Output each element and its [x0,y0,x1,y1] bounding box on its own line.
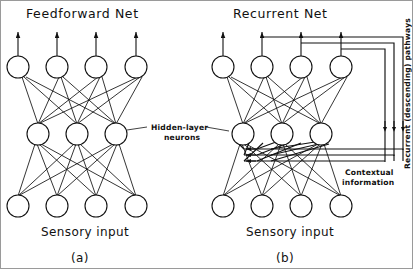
figure-neural-networks: Feedforward Net [0,0,413,269]
neuron-output [330,56,352,78]
neuron-output [125,56,147,78]
neuron-hidden [310,123,332,145]
neuron-input [125,195,147,217]
hidden-layer-label-line1: Hidden-layer [151,123,208,132]
output-layer-a [7,56,147,78]
panel-b-title: Recurrent Net [233,6,328,21]
output-axons-b [223,32,341,56]
synapses-hidden-to-output-b [227,77,347,129]
neuron-input [85,195,107,217]
neuron-hidden [27,123,49,145]
neuron-output [85,56,107,78]
panel-a-caption: (a) [71,251,89,265]
neuron-hidden [271,123,293,145]
panel-recurrent: Recurrent Net [212,6,403,265]
neuron-input [290,195,312,217]
contextual-label-line2: information [342,178,394,187]
neuron-output [7,56,29,78]
hidden-layer-annotation: Hidden-layer neurons [127,123,229,142]
recurrent-pathways-annotation: Recurrent (descending) pathways [403,18,412,169]
contextual-information-annotation: Contextual information [342,168,394,187]
neuron-output [290,56,312,78]
hidden-layer-b [232,123,332,145]
sensory-input-label-b: Sensory input [246,225,334,239]
panel-feedforward: Feedforward Net [7,6,147,265]
input-layer-b [212,195,352,217]
neuron-hidden [105,123,127,145]
neuron-input [330,195,352,217]
diagram-canvas: Feedforward Net [1,1,413,269]
synapses-input-to-hidden-a [18,144,136,201]
sensory-input-label-a: Sensory input [41,225,129,239]
neuron-input [212,195,234,217]
neuron-input [46,195,68,217]
neuron-output [212,56,234,78]
hidden-layer-a [27,123,127,145]
input-layer-a [7,195,147,217]
neuron-hidden [66,123,88,145]
panel-b-caption: (b) [276,251,294,265]
output-layer-b [212,56,352,78]
neuron-hidden [232,123,254,145]
hidden-layer-label-line2: neurons [164,133,201,142]
recurrent-pathways-label: Recurrent (descending) pathways [403,18,412,169]
neuron-output [251,56,273,78]
neuron-input [7,195,29,217]
neuron-input [251,195,273,217]
contextual-label-line1: Contextual [345,168,394,177]
neuron-output [46,56,68,78]
output-axons-a [18,32,136,56]
synapses-hidden-to-output-a [22,77,142,129]
panel-a-title: Feedforward Net [26,6,139,21]
